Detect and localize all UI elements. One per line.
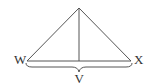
brace-label-v: V bbox=[75, 71, 85, 84]
triangle-diagram: W X V bbox=[0, 0, 149, 84]
side-left bbox=[27, 8, 79, 61]
vertex-label-w: W bbox=[14, 52, 27, 67]
side-right bbox=[79, 8, 131, 61]
vertex-label-x: X bbox=[134, 52, 144, 67]
